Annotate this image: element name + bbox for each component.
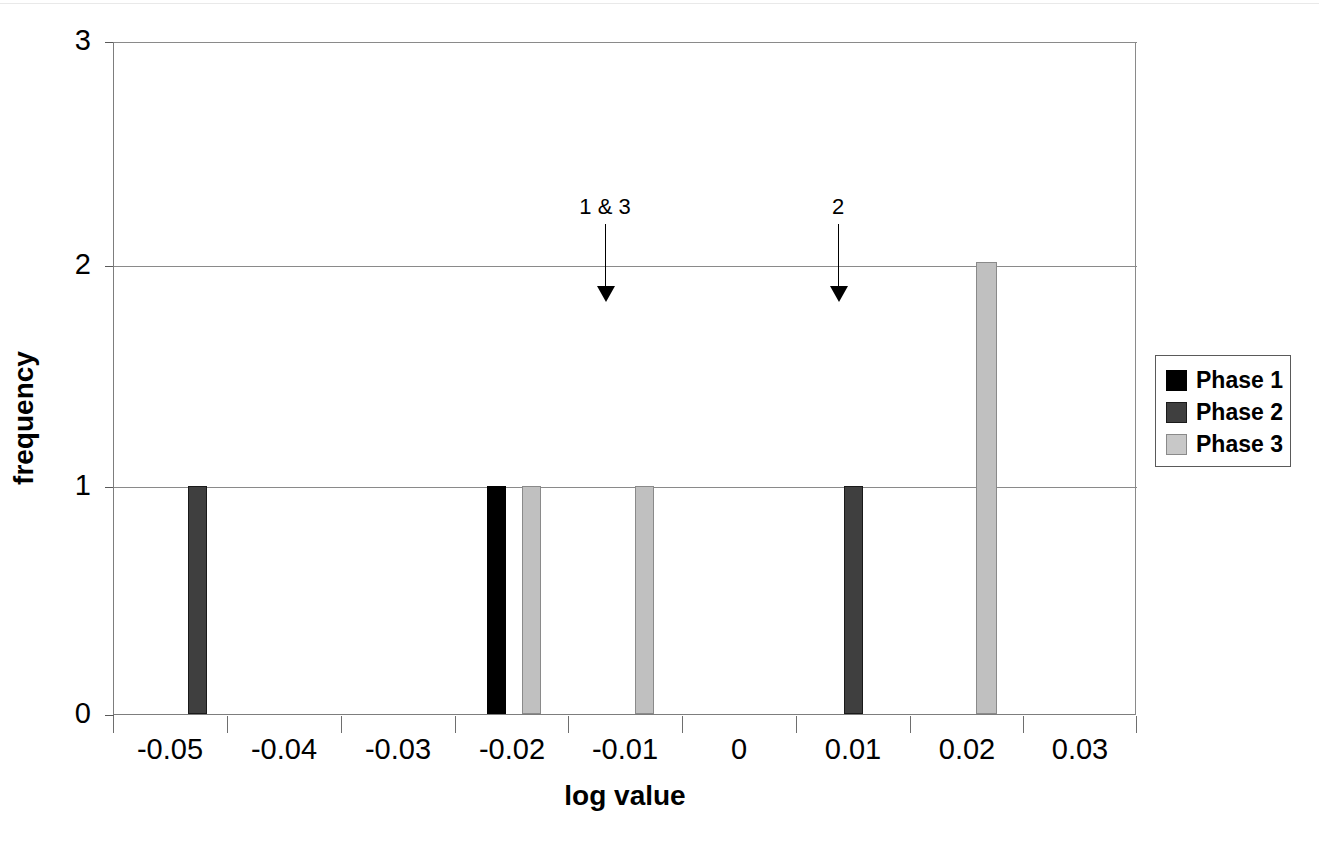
legend-label-phase-2: Phase 2	[1196, 399, 1283, 426]
annotation-1-and-3-arrowhead-icon	[597, 286, 615, 302]
x-tick-mark-2	[341, 716, 342, 733]
plot-area	[113, 42, 1136, 715]
x-tick-mark-6	[796, 716, 797, 733]
scan-edge-line	[0, 3, 1319, 4]
table-row	[188, 486, 207, 714]
x-tick-mark-5	[682, 716, 683, 733]
table-row	[522, 486, 541, 714]
legend-item-phase-1: Phase 1	[1166, 364, 1290, 396]
x-axis-title: log value	[0, 780, 1250, 812]
annotation-2-stem	[838, 224, 839, 288]
chart-legend: Phase 1 Phase 2 Phase 3	[1155, 355, 1291, 467]
gridline-y-3	[114, 42, 1137, 43]
legend-swatch-icon-phase-1	[1166, 370, 1187, 391]
bar-chart-figure: frequency 3 2 1 0 1 & 3 2	[0, 0, 1319, 845]
annotation-2-arrowhead-icon	[830, 286, 848, 302]
x-tick-mark-7	[910, 716, 911, 733]
legend-swatch-icon-phase-3	[1166, 434, 1187, 455]
annotation-1-and-3-label: 1 & 3	[525, 196, 685, 218]
annotation-1-and-3-stem	[605, 224, 606, 288]
y-tick-label-0: 0	[31, 699, 91, 728]
legend-item-phase-3: Phase 3	[1166, 428, 1290, 460]
table-row	[976, 262, 997, 714]
x-tick-mark-8	[1023, 716, 1024, 733]
table-row	[635, 486, 654, 714]
y-tick-label-3: 3	[31, 26, 91, 55]
x-tick-mark-0	[113, 716, 114, 733]
table-row	[487, 486, 506, 714]
x-tick-mark-3	[455, 716, 456, 733]
x-tick-mark-4	[568, 716, 569, 733]
y-tick-label-1: 1	[31, 471, 91, 500]
legend-label-phase-3: Phase 3	[1196, 431, 1283, 458]
x-tick-mark-1	[227, 716, 228, 733]
table-row	[844, 486, 863, 714]
legend-item-phase-2: Phase 2	[1166, 396, 1290, 428]
plot-right-border	[1135, 42, 1136, 715]
annotation-2-label: 2	[758, 196, 918, 218]
legend-label-phase-1: Phase 1	[1196, 367, 1283, 394]
x-tick-label-8: 0.03	[1010, 735, 1150, 764]
x-tick-mark-9	[1136, 716, 1137, 733]
legend-swatch-icon-phase-2	[1166, 402, 1187, 423]
y-tick-label-2: 2	[31, 250, 91, 279]
